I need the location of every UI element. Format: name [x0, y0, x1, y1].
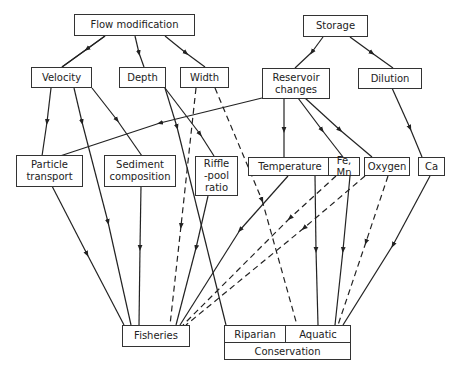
node-fe-mn: Fe, Mn	[328, 157, 360, 176]
node-ca: Ca	[418, 157, 445, 176]
node-conservation: Conservation	[224, 342, 351, 360]
node-temperature: Temperature	[248, 157, 332, 176]
node-aquatic: Aquatic	[285, 325, 351, 343]
node-oxygen: Oxygen	[364, 157, 410, 176]
node-riffle-pool-ratio: Riffle -pool ratio	[195, 156, 238, 196]
node-riparian: Riparian	[224, 325, 286, 343]
node-particle-transport: Particle transport	[16, 155, 83, 187]
node-velocity: Velocity	[31, 67, 92, 88]
node-sediment-composition: Sediment composition	[104, 155, 176, 187]
node-storage: Storage	[303, 15, 368, 37]
node-reservoir-changes: Reservoir changes	[262, 68, 330, 99]
node-depth: Depth	[119, 67, 166, 88]
node-width: Width	[180, 67, 229, 88]
node-dilution: Dilution	[358, 68, 422, 89]
node-fisheries: Fisheries	[122, 325, 190, 347]
node-flow-modification: Flow modification	[74, 14, 195, 36]
